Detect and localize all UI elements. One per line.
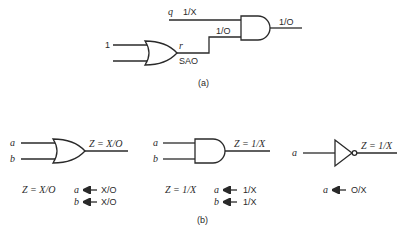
or-input-a-label: a xyxy=(10,137,15,148)
r-value: 1/O xyxy=(216,26,231,36)
not-gate xyxy=(335,140,352,166)
and-assign-b-val: 1/X xyxy=(243,197,257,207)
or-assign-a-var: a xyxy=(74,184,79,195)
figure-b: a b Z = X/O Z = X/O a X/O b X/O a b Z = … xyxy=(10,137,397,225)
and-input-a-label: a xyxy=(153,137,158,148)
figure-a: q 1/X 1/O 1 r SAO 1/O (a) xyxy=(105,6,302,88)
caption-b: (b) xyxy=(197,215,208,225)
and-gate-b xyxy=(195,139,225,163)
not-output-label: Z = 1/X xyxy=(361,140,393,151)
output-value: 1/O xyxy=(279,17,294,27)
and-gate xyxy=(241,16,270,40)
or-result-z: Z = X/O xyxy=(22,184,55,195)
or-assign-b-var: b xyxy=(74,196,79,207)
not-assign-a-var: a xyxy=(323,184,328,195)
r-wire xyxy=(177,37,241,53)
not-input-a-label: a xyxy=(292,147,297,158)
q-label: q xyxy=(168,6,173,17)
q-value: 1/X xyxy=(183,7,197,17)
and-assign-b-var: b xyxy=(214,196,219,207)
caption-a: (a) xyxy=(198,78,209,88)
not-example: a Z = 1/X a O/X xyxy=(292,140,397,195)
or-assign-a-val: X/O xyxy=(101,185,117,195)
or-gate xyxy=(145,41,177,65)
or-input-b-label: b xyxy=(10,153,15,164)
input-one-label: 1 xyxy=(105,40,110,50)
or-assign-b-val: X/O xyxy=(101,197,117,207)
r-fault-label: SAO xyxy=(179,56,198,66)
and-input-b-label: b xyxy=(153,153,158,164)
not-bubble xyxy=(352,151,357,156)
and-assign-a-val: 1/X xyxy=(243,185,257,195)
circuit-diagram: q 1/X 1/O 1 r SAO 1/O (a) a b Z = X/O Z … xyxy=(0,0,406,236)
r-label: r xyxy=(179,40,183,51)
and-assign-a-var: a xyxy=(214,184,219,195)
and-output-label: Z = 1/X xyxy=(234,138,266,149)
and-example: a b Z = 1/X Z = 1/X a 1/X b 1/X xyxy=(153,137,270,207)
not-assign-a-val: O/X xyxy=(351,185,367,195)
or-output-label: Z = X/O xyxy=(89,138,122,149)
or-gate-b xyxy=(53,139,85,163)
or-example: a b Z = X/O Z = X/O a X/O b X/O xyxy=(10,137,128,207)
and-result-z: Z = 1/X xyxy=(165,184,197,195)
